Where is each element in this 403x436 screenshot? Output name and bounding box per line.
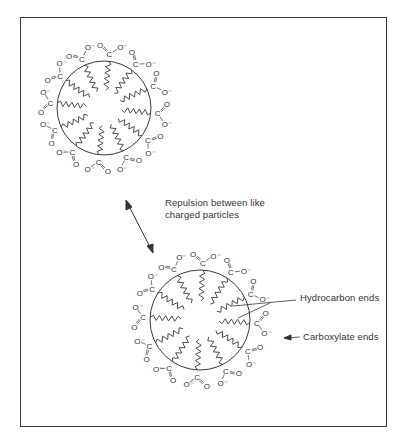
carboxylate-head: COO⁻ — [38, 88, 53, 117]
svg-text:C: C — [133, 60, 139, 69]
carboxylate-head: COO⁻ — [153, 364, 176, 385]
svg-text:O⁻: O⁻ — [176, 253, 186, 262]
svg-text:C: C — [200, 259, 206, 268]
carboxylate-arrow-icon — [284, 335, 300, 340]
top-micelle: COO⁻COO⁻COO⁻COO⁻COO⁻COO⁻COO⁻COO⁻COO⁻COO⁻… — [38, 41, 172, 176]
svg-text:C: C — [140, 313, 146, 322]
repulsion-label: Repulsion between like charged particles — [165, 197, 265, 221]
hydrocarbon-chain — [172, 336, 189, 362]
carboxylate-head: COO⁻ — [248, 277, 270, 304]
svg-text:O: O — [158, 263, 164, 272]
svg-text:O⁻: O⁻ — [145, 149, 155, 158]
svg-text:C: C — [166, 364, 172, 373]
carboxylate-head: COO⁻ — [137, 272, 158, 298]
carboxylate-head: COO⁻ — [190, 250, 221, 268]
hydrocarbon-chain — [61, 114, 88, 127]
hydrocarbon-chain — [195, 339, 201, 370]
svg-text:O⁻: O⁻ — [246, 360, 256, 369]
carboxylate-head: COO⁻ — [155, 100, 172, 129]
svg-text:C: C — [171, 265, 177, 274]
carboxylate-head: COO⁻ — [245, 343, 263, 369]
svg-text:O: O — [190, 250, 196, 259]
svg-text:O: O — [136, 156, 142, 165]
carboxylate-head: COO⁻ — [129, 48, 156, 70]
svg-text:O: O — [170, 376, 176, 385]
svg-text:O: O — [137, 289, 143, 298]
carboxylate-head: COO⁻ — [254, 309, 272, 338]
repulsion-arrow-icon — [126, 200, 153, 253]
svg-text:O⁻: O⁻ — [241, 267, 251, 276]
svg-text:O: O — [236, 369, 242, 378]
svg-text:C: C — [228, 268, 234, 277]
svg-text:O: O — [66, 52, 72, 61]
hydrocarbon-chain — [122, 108, 151, 115]
svg-text:O: O — [257, 343, 263, 352]
carboxylate-head: COO⁻ — [97, 41, 127, 59]
svg-text:O⁻: O⁻ — [56, 148, 66, 157]
svg-text:O⁻: O⁻ — [117, 165, 127, 174]
hydrocarbon-chain — [76, 122, 93, 146]
svg-text:C: C — [79, 55, 85, 64]
svg-text:O⁻: O⁻ — [162, 120, 172, 129]
carboxylate-head: COO⁻ — [224, 256, 251, 277]
svg-text:O: O — [262, 309, 268, 318]
carboxylate-head: COO⁻ — [145, 132, 164, 158]
svg-text:O: O — [204, 382, 210, 391]
carboxylate-head: COO⁻ — [56, 148, 79, 170]
carboxylate-head: COO⁻ — [45, 59, 67, 85]
svg-text:O: O — [105, 167, 111, 176]
carboxylate-head: COO⁻ — [40, 120, 58, 148]
carboxylate-head: COO⁻ — [66, 43, 95, 64]
hydrocarbon-chain — [150, 315, 181, 321]
svg-text:O⁻: O⁻ — [210, 252, 220, 261]
svg-text:O⁻: O⁻ — [218, 379, 228, 388]
svg-text:C: C — [245, 347, 251, 356]
hydrocarbon-chain — [104, 61, 111, 90]
hydrocarbon-chain — [57, 101, 86, 108]
svg-text:C: C — [149, 285, 155, 294]
svg-text:C: C — [70, 148, 76, 157]
hydrocarbon-chain — [110, 124, 123, 151]
svg-text:C: C — [96, 158, 102, 167]
svg-text:O: O — [73, 160, 79, 169]
bottom-micelle: COO⁻COO⁻COO⁻COO⁻COO⁻COO⁻COO⁻COO⁻COO⁻COO⁻… — [131, 250, 271, 390]
hydrocarbon-chain — [208, 337, 223, 365]
carboxylate-head: COO⁻ — [85, 158, 111, 176]
svg-text:O⁻: O⁻ — [261, 329, 271, 338]
svg-text:O: O — [144, 355, 150, 364]
carboxylate-head: COO⁻ — [183, 373, 210, 391]
hydrocarbon-chain — [210, 278, 227, 304]
carboxylate-head: COO⁻ — [131, 303, 146, 332]
svg-text:O: O — [97, 41, 103, 50]
svg-text:O: O — [129, 48, 135, 57]
hydrocarbon-chain — [120, 89, 147, 102]
svg-text:O⁻: O⁻ — [153, 365, 163, 374]
svg-text:O⁻: O⁻ — [117, 43, 127, 52]
hydrocarbon-chain — [114, 70, 131, 94]
carboxylate-head: COO⁻ — [218, 367, 242, 388]
hydrocarbon-chain — [85, 65, 98, 92]
svg-text:C: C — [248, 290, 254, 299]
carboxylate-ends-label: Carboxylate ends — [303, 331, 379, 343]
svg-text:O⁻: O⁻ — [145, 60, 155, 69]
svg-text:C: C — [146, 342, 152, 351]
svg-text:C: C — [150, 82, 156, 91]
svg-text:C: C — [47, 99, 53, 108]
svg-text:O: O — [131, 323, 137, 332]
svg-text:O: O — [48, 139, 54, 148]
hydrocarbon-chain — [156, 328, 184, 343]
carboxylate-head: COO⁻ — [150, 69, 172, 97]
hydrocarbon-chain — [199, 270, 205, 301]
svg-text:O⁻: O⁻ — [162, 88, 172, 97]
svg-text:O: O — [45, 76, 51, 85]
svg-text:O: O — [157, 132, 163, 141]
svg-text:O: O — [153, 69, 159, 78]
hydrocarbon-chain — [66, 80, 90, 97]
svg-text:O⁻: O⁻ — [56, 59, 66, 68]
hydrocarbon-chain — [97, 126, 104, 155]
svg-text:O⁻: O⁻ — [85, 165, 95, 174]
hydrocarbon-chain — [158, 292, 184, 309]
svg-text:O: O — [38, 108, 44, 117]
svg-text:O⁻: O⁻ — [148, 272, 158, 281]
micelle-boundary — [57, 61, 151, 155]
